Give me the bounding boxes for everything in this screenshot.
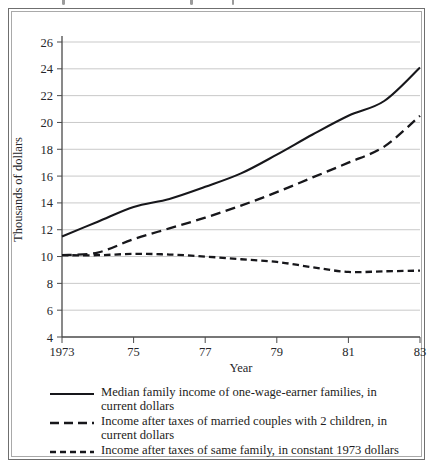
y-tick-label: 4 bbox=[47, 331, 54, 345]
y-tick-label: 16 bbox=[41, 170, 54, 184]
chart-plot: 46810121416182022242619737577798183YearT… bbox=[0, 0, 433, 380]
legend-item: Income after taxes of married couples wi… bbox=[48, 414, 408, 442]
series-line-1 bbox=[62, 67, 420, 236]
y-tick-label: 10 bbox=[41, 250, 54, 264]
line-chart: 46810121416182022242619737577798183YearT… bbox=[0, 0, 433, 380]
legend-swatch-long-dash bbox=[48, 415, 96, 431]
x-tick-label: 81 bbox=[342, 345, 355, 359]
legend-swatch-short-dash bbox=[48, 444, 96, 460]
x-tick-label: 83 bbox=[414, 345, 427, 359]
y-tick-label: 22 bbox=[41, 89, 54, 103]
legend-item: Income after taxes of same family, in co… bbox=[48, 443, 408, 460]
y-tick-label: 18 bbox=[41, 143, 54, 157]
legend-item: Median family income of one-wage-earner … bbox=[48, 385, 408, 413]
y-tick-label: 12 bbox=[41, 223, 54, 237]
y-tick-label: 20 bbox=[41, 116, 54, 130]
y-tick-label: 24 bbox=[41, 62, 54, 76]
legend-label-median-family-income: Median family income of one-wage-earner … bbox=[101, 385, 401, 413]
legend-label-income-after-taxes-current: Income after taxes of married couples wi… bbox=[101, 414, 401, 442]
x-tick-label: 75 bbox=[127, 345, 140, 359]
y-tick-label: 26 bbox=[41, 36, 54, 50]
x-tick-label: 1973 bbox=[50, 345, 75, 359]
x-axis-title: Year bbox=[229, 361, 253, 375]
y-tick-label: 14 bbox=[41, 196, 54, 210]
legend-swatch-solid bbox=[48, 386, 96, 402]
y-tick-label: 8 bbox=[47, 277, 53, 291]
series-line-2 bbox=[62, 116, 420, 255]
legend-label-income-after-taxes-constant: Income after taxes of same family, in co… bbox=[101, 443, 399, 457]
chart-legend: Median family income of one-wage-earner … bbox=[48, 385, 408, 461]
x-tick-label: 79 bbox=[271, 345, 284, 359]
y-axis-title: Thousands of dollars bbox=[11, 137, 25, 242]
x-tick-label: 77 bbox=[199, 345, 212, 359]
y-tick-label: 6 bbox=[47, 304, 53, 318]
